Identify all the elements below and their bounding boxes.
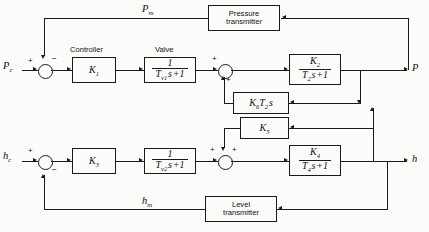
sign-pressure-error-minus: − [52, 55, 57, 63]
cross-gain-k5-block[interactable]: K5 [240, 117, 289, 139]
process-upper-denominator: T2 s +1 [299, 69, 331, 83]
arrow-into-process-upper [284, 67, 288, 71]
valve-lower-block[interactable]: 1 Tv2 s +1 [144, 148, 196, 174]
arrow-pm-into-sum [41, 55, 45, 59]
arrow-pc-into-sum [33, 67, 37, 71]
arrow-into-pressure-inner-sum [213, 67, 217, 71]
arrow-hc-into-sum [33, 158, 37, 162]
arrow-h-output [404, 158, 408, 162]
sign-pressure-inner-plus-bottom: + [226, 76, 231, 84]
process-lower-transfer-function: K4 T4 s +1 [299, 147, 331, 174]
process-upper-transfer-function: K2 T2 s +1 [299, 56, 331, 83]
arrow-into-valve-lower [139, 158, 143, 162]
signal-label-hc: hc [3, 150, 11, 163]
arrow-into-level-inner-sum [213, 158, 217, 162]
valve-lower-transfer-function: 1 Tv2 s +1 [152, 149, 187, 173]
line-p-tap-down [360, 70, 361, 103]
line-to-k5 [289, 128, 374, 129]
caption-controller: Controller [70, 45, 103, 54]
arrow-into-k3 [67, 158, 71, 162]
arrow-p-output [404, 67, 408, 71]
controller-k1-label: K1 [89, 64, 99, 77]
pressure-transmitter-line2: transmitter [226, 18, 262, 26]
valve-lower-denominator: Tv2 s +1 [152, 159, 187, 173]
line-h-tap-up [373, 108, 374, 162]
arrow-into-valve-upper [139, 67, 143, 71]
summing-junction-level-inner[interactable] [218, 155, 233, 170]
line-k5-out [224, 128, 240, 129]
arrow-h-tap-up [370, 107, 374, 111]
arrow-k5-into-sum [221, 147, 225, 151]
line-bottom-right-to-transmitter [277, 209, 388, 210]
line-sum-to-process-upper [231, 70, 289, 71]
line-hm-horizontal [44, 209, 205, 210]
line-p-tap-to-top [408, 18, 409, 70]
signal-label-hm: hm [142, 195, 152, 208]
controller-k3-block[interactable]: K3 [72, 148, 116, 174]
summing-junction-pressure-error[interactable] [38, 64, 53, 79]
line-k5-down-to-sum [224, 128, 225, 148]
controller-k1-block[interactable]: K1 [72, 57, 116, 83]
valve-upper-denominator: Tv1 s +1 [152, 68, 187, 82]
signal-label-p-output: P [412, 62, 418, 73]
sign-pressure-inner-plus-left: + [212, 55, 217, 63]
sign-level-error-plus: + [28, 147, 33, 155]
arrow-into-controller [67, 67, 71, 71]
controller-k3-label: K3 [89, 155, 99, 168]
sign-level-inner-plus-left: + [210, 146, 215, 154]
signal-label-pc: Pc [3, 60, 13, 73]
arrow-into-level-transmitter [278, 206, 282, 210]
valve-upper-numerator: 1 [152, 58, 187, 68]
arrow-derivative-into-sum [221, 76, 225, 80]
signal-label-h-output: h [412, 153, 417, 164]
process-lower-block[interactable]: K4 T4 s +1 [289, 145, 341, 176]
line-process-upper-to-output [341, 70, 407, 71]
block-diagram-canvas: Pressure transmitter Pm Pc + − Controlle… [0, 0, 429, 232]
valve-lower-numerator: 1 [152, 149, 187, 159]
arrow-into-pressure-transmitter [282, 15, 286, 19]
line-pm-down-to-sum [44, 18, 45, 56]
arrow-hm-into-sum [41, 174, 45, 178]
summing-junction-level-error[interactable] [38, 155, 53, 170]
process-lower-numerator: K4 [299, 147, 331, 160]
line-top-right-to-transmitter [281, 18, 409, 19]
arrow-into-k5 [290, 125, 294, 129]
pressure-transmitter-block[interactable]: Pressure transmitter [208, 5, 280, 31]
process-upper-block[interactable]: K2 T2 s +1 [289, 54, 341, 85]
caption-valve: Valve [155, 45, 173, 54]
line-sum-to-process-lower [231, 161, 289, 162]
line-hm-up-to-sum [44, 175, 45, 210]
arrow-into-process-lower [284, 158, 288, 162]
derivative-feedback-label: K6T2 s [249, 97, 273, 110]
process-upper-numerator: K2 [299, 56, 331, 69]
sign-pressure-error-plus: + [28, 57, 33, 65]
valve-upper-transfer-function: 1 Tv1 s +1 [152, 58, 187, 82]
derivative-feedback-block[interactable]: K6T2 s [233, 92, 289, 114]
arrow-into-derivative-feedback [290, 100, 294, 104]
line-derivative-feedback-up-to-sum [224, 77, 225, 104]
line-pm-horizontal [44, 18, 208, 19]
sign-level-error-minus: − [52, 166, 57, 174]
sign-level-inner-plus-top: + [232, 146, 237, 154]
line-derivative-feedback-out [224, 103, 233, 104]
valve-upper-block[interactable]: 1 Tv1 s +1 [144, 57, 196, 83]
level-transmitter-line2: transmitter [223, 209, 259, 217]
line-to-derivative-feedback [289, 103, 361, 104]
process-lower-denominator: T4 s +1 [299, 160, 331, 174]
level-transmitter-block[interactable]: Level transmitter [205, 196, 277, 222]
cross-gain-k5-label: K5 [260, 122, 270, 135]
signal-label-pm: Pm [142, 3, 153, 16]
line-h-tap-to-bottom [387, 161, 388, 209]
